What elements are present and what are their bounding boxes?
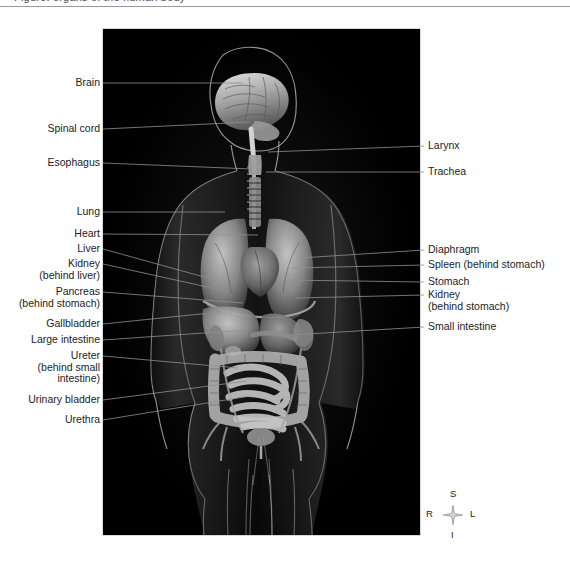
organ-label-diaphragm: Diaphragm (428, 244, 479, 256)
organ-label-esophagus: Esophagus (46, 157, 100, 169)
organ-label-urethra: Urethra (59, 414, 100, 426)
anatomy-figure-panel (103, 29, 420, 535)
organ-label-liver: Liver (73, 243, 100, 255)
organ-label-gallbladder: Gallbladder (45, 318, 100, 330)
compass-label-superior: S (450, 489, 456, 499)
header-divider-rule (0, 6, 570, 7)
organ-label-stomach: Stomach (428, 276, 469, 288)
compass-label-left: L (470, 509, 475, 519)
organ-label-kidney-right: Kidney (behind stomach) (428, 289, 509, 312)
compass-star-icon (443, 505, 463, 525)
compass-label-right: R (426, 509, 433, 519)
organ-label-large-intestine: Large intestine (29, 334, 100, 346)
organ-label-brain: Brain (68, 77, 100, 89)
organ-label-heart: Heart (70, 228, 100, 240)
organ-label-spleen: Spleen (behind stomach) (428, 259, 545, 271)
organ-label-pancreas: Pancreas (behind stomach) (8, 286, 100, 309)
organ-label-urinary-bladder: Urinary bladder (27, 394, 100, 406)
page-header-cropped-text: Figure: organs of the human body (14, 0, 434, 5)
compass-label-inferior: I (451, 530, 454, 540)
trachea-organ (248, 155, 262, 227)
orientation-compass: S I R L (425, 487, 481, 547)
urinary-bladder-organ (247, 428, 275, 446)
human-body-illustration (103, 29, 420, 535)
organ-label-spinal-cord: Spinal cord (44, 123, 100, 135)
organ-label-trachea: Trachea (428, 166, 466, 178)
organ-label-ureter: Ureter (behind small intestine) (36, 350, 100, 385)
organ-label-small-intestine: Small intestine (428, 321, 496, 333)
organ-label-larynx: Larynx (428, 140, 460, 152)
organ-label-lung: Lung (72, 206, 100, 218)
organ-label-kidney-left: Kidney (behind liver) (28, 258, 100, 281)
